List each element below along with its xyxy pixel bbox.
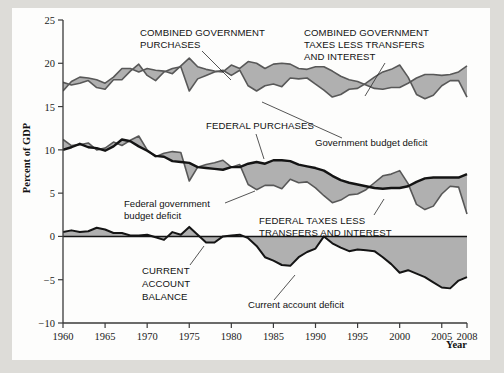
y-tick-label: 15 [45,102,56,113]
y-tick-label: 5 [50,188,55,199]
x-tick-label: 1985 [263,331,284,342]
annotation-federal-budget-deficit-line2: budget deficit [124,210,181,221]
x-tick-label: 1960 [53,331,74,342]
x-tick-label: 1995 [347,331,368,342]
y-axis-title: Percent of GDP [21,122,32,193]
x-tick-label: 1980 [221,331,242,342]
annotation-current-account-balance-line2: ACCOUNT [142,278,190,289]
x-tick-label: 2000 [389,331,410,342]
x-tick-label: 1990 [305,331,326,342]
y-tick-label: 10 [45,145,56,156]
y-tick-label: 20 [45,58,56,69]
annotation-current-account-balance-line1: CURRENT [142,265,190,276]
annotation-federal-purchases: FEDERAL PURCHASES [206,120,314,131]
annotation-federal-taxes-line1: FEDERAL TAXES LESS [259,215,365,226]
annotation-federal-budget-deficit-line1: Federal government [124,198,210,209]
x-tick-label: 1975 [179,331,200,342]
annotation-current-account-deficit: Current account deficit [248,299,344,310]
figure-background: 2520151050−5−10 196019651970197519801985… [0,0,504,373]
y-tick-label: 25 [45,15,56,26]
annotation-government-budget-deficit: Government budget deficit [315,137,428,148]
chart-paper: 2520151050−5−10 196019651970197519801985… [12,8,490,360]
annotation-combined-taxes-line1: COMBINED GOVERNMENT [304,27,429,38]
y-tick-label: −10 [39,318,55,329]
annotation-combined-taxes-line2: TAXES LESS TRANSFERS [304,39,425,50]
annotation-current-account-balance-line3: BALANCE [142,291,188,302]
y-tick-label: −5 [44,275,55,286]
x-axis-title: Year [446,339,467,350]
x-tick-label: 1970 [137,331,158,342]
economics-chart: 2520151050−5−10 196019651970197519801985… [12,8,490,360]
annotation-combined-taxes-line3: AND INTEREST [304,51,376,62]
y-tick-label: 0 [50,231,55,242]
x-tick-label: 1965 [95,331,116,342]
annotation-combined-purchases-line2: PURCHASES [140,39,201,50]
annotation-federal-taxes-line2: TRANSFERS AND INTEREST [259,227,392,238]
annotation-combined-purchases-line1: COMBINED GOVERNMENT [140,27,265,38]
